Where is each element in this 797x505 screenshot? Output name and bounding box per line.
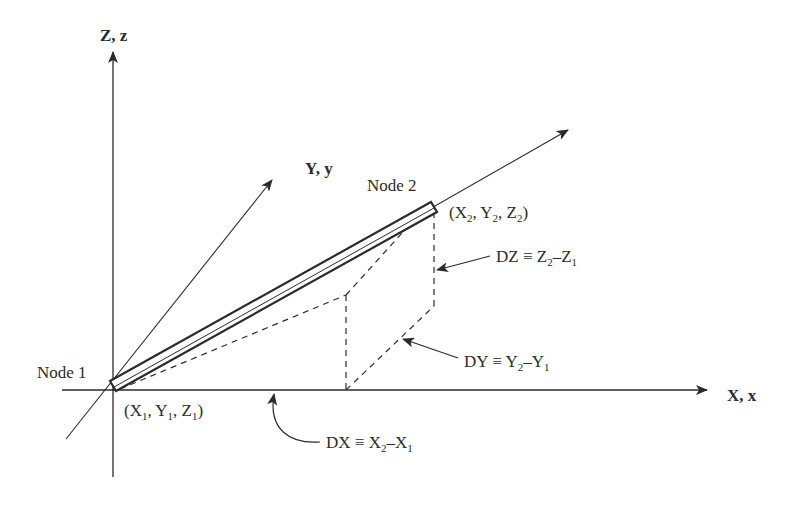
element-diagram: Z, z Y, y X, x Node 1 Node 2 (X1, Y1, Z1… bbox=[0, 0, 797, 505]
dx-label: DX ≡ X2–X1 bbox=[326, 433, 413, 454]
z-axis-label: Z, z bbox=[100, 26, 128, 45]
dz-label: DZ ≡ Z2–Z1 bbox=[496, 247, 577, 268]
y-axis-label: Y, y bbox=[305, 159, 333, 178]
node2-coords: (X2, Y2, Z2) bbox=[449, 203, 528, 224]
dx-pointer bbox=[273, 394, 320, 442]
node1-label: Node 1 bbox=[37, 363, 87, 382]
x-axis-label: X, x bbox=[727, 386, 757, 405]
dz-pointer bbox=[437, 256, 490, 270]
node2-label: Node 2 bbox=[367, 176, 417, 195]
dy-label: DY ≡ Y2–Y1 bbox=[464, 352, 549, 373]
member-bar bbox=[110, 202, 437, 391]
dy-pointer bbox=[403, 339, 458, 358]
node1-coords: (X1, Y1, Z1) bbox=[124, 401, 203, 422]
